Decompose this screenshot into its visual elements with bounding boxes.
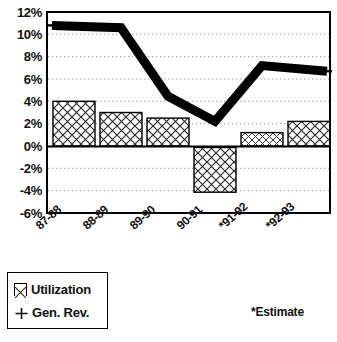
crosshatch-square-icon	[14, 283, 27, 296]
chart-screenshot: 12% 10% 8% 6% 4% 2% 0% -2% -4% -6% 87-88…	[0, 0, 337, 342]
estimate-footnote: *Estimate	[251, 305, 304, 319]
bar-91-92	[241, 133, 283, 146]
y-tick-label: 8%	[0, 50, 42, 63]
legend-label-gen-rev: Gen. Rev.	[32, 305, 89, 320]
y-tick-label: -4%	[0, 184, 42, 197]
y-tick-label: 2%	[0, 117, 42, 130]
legend-item-utilization: Utilization	[14, 279, 91, 299]
bar-92-93	[288, 121, 330, 146]
legend-label-utilization: Utilization	[31, 282, 91, 297]
bar-90-91	[194, 148, 236, 193]
bar-89-90	[147, 118, 189, 146]
bar-88-89	[100, 113, 142, 147]
chart-legend: Utilization Gen. Rev.	[7, 272, 108, 329]
legend-item-gen-rev: Gen. Rev.	[14, 302, 89, 322]
y-tick-label: -2%	[0, 162, 42, 175]
y-tick-label: 10%	[0, 28, 42, 41]
bar-87-88	[53, 101, 95, 146]
plus-icon	[14, 306, 29, 319]
y-tick-label: 6%	[0, 73, 42, 86]
y-tick-label: 4%	[0, 95, 42, 108]
y-tick-label: 12%	[0, 6, 42, 19]
y-tick-label: 0%	[0, 140, 42, 153]
chart-figure: 12% 10% 8% 6% 4% 2% 0% -2% -4% -6% 87-88…	[0, 0, 337, 262]
